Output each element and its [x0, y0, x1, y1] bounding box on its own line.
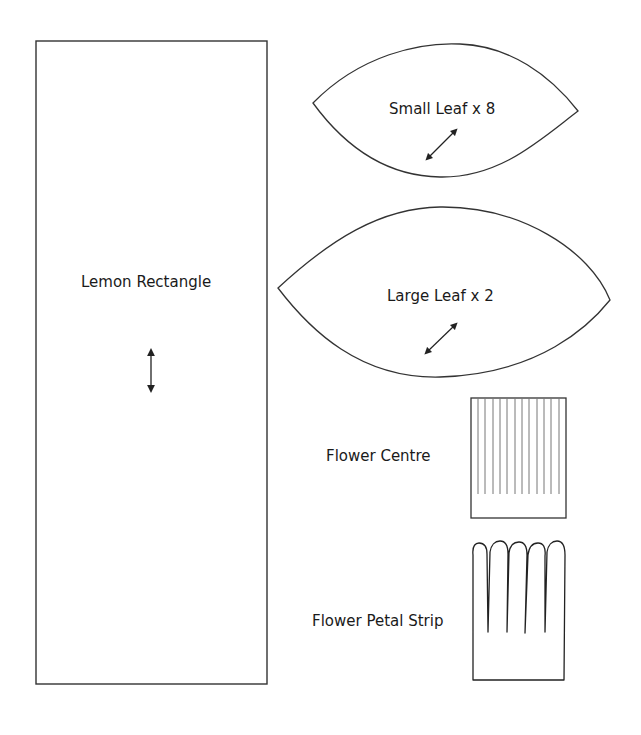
lemon-rectangle-label: Lemon Rectangle	[81, 273, 211, 291]
flower-centre-label: Flower Centre	[326, 447, 431, 465]
flower-centre-piece	[471, 398, 566, 518]
flower-petal-strip-piece	[473, 541, 565, 680]
diagonal-double-arrow-icon	[427, 325, 455, 352]
large-leaf-label: Large Leaf x 2	[387, 287, 494, 305]
flower-petal-strip-label: Flower Petal Strip	[312, 612, 443, 630]
small-leaf-label: Small Leaf x 8	[389, 100, 495, 118]
diagonal-double-arrow-icon	[428, 131, 455, 158]
lemon-rectangle-piece	[36, 41, 267, 684]
